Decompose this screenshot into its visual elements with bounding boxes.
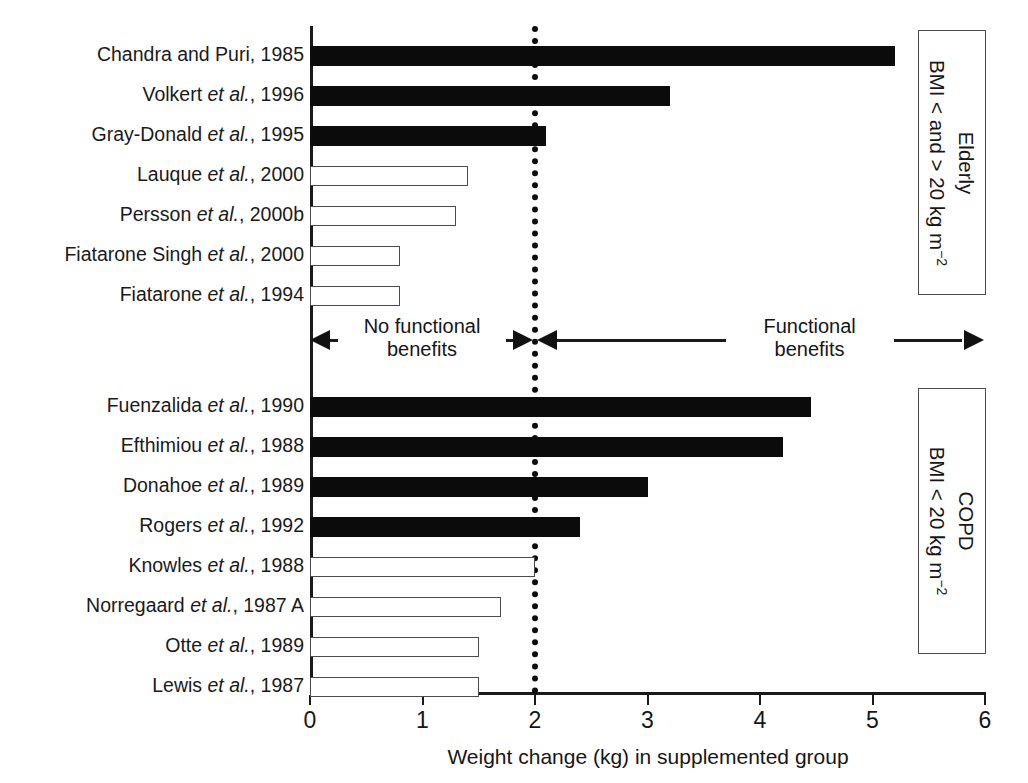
group-copd-sup: −2	[934, 579, 950, 595]
bar-fill	[310, 246, 400, 266]
group-box-copd-text: COPD BMI < 20 kg m−2	[925, 447, 980, 596]
bar-elderly-2	[310, 126, 546, 146]
bar-fill	[310, 597, 501, 617]
study-label-copd-1: Efthimiou et al., 1988	[4, 435, 304, 455]
bar-copd-2	[310, 477, 648, 497]
x-tick-2	[534, 695, 536, 705]
bar-copd-6	[310, 637, 479, 657]
study-label-elderly-0: Chandra and Puri, 1985	[4, 44, 304, 64]
study-label-copd-2: Donahoe et al., 1989	[4, 475, 304, 495]
study-label-elderly-5: Fiatarone Singh et al., 2000	[4, 244, 304, 264]
bar-copd-3	[310, 517, 580, 537]
arrow-inward-right-icon	[513, 330, 533, 350]
study-label-copd-7: Lewis et al., 1987	[4, 675, 304, 695]
x-tick-3	[647, 695, 649, 705]
bar-copd-7	[310, 677, 479, 697]
study-label-copd-6: Otte et al., 1989	[4, 635, 304, 655]
study-label-elderly-2: Gray-Donald et al., 1995	[4, 124, 304, 144]
group-box-copd: COPD BMI < 20 kg m−2	[918, 388, 986, 654]
group-box-elderly: Elderly BMI < and > 20 kg m−2	[918, 30, 986, 295]
bar-fill	[310, 126, 546, 146]
bar-fill	[310, 86, 670, 106]
study-label-elderly-1: Volkert et al., 1996	[4, 84, 304, 104]
bar-fill	[310, 206, 456, 226]
group-copd-line1: COPD	[955, 491, 978, 550]
bar-fill	[310, 637, 479, 657]
study-label-elderly-4: Persson et al., 2000b	[4, 204, 304, 224]
bar-elderly-6	[310, 286, 400, 306]
study-label-copd-3: Rogers et al., 1992	[4, 515, 304, 535]
bar-fill	[310, 677, 479, 697]
bar-elderly-4	[310, 206, 456, 226]
x-tick-label-1: 1	[403, 707, 443, 734]
x-tick-label-4: 4	[740, 707, 780, 734]
x-tick-label-2: 2	[515, 707, 555, 734]
study-label-elderly-6: Fiatarone et al., 1994	[4, 284, 304, 304]
no-functional-line2: benefits	[387, 338, 457, 360]
study-label-copd-5: Norregaard et al., 1987 A	[4, 595, 304, 615]
study-label-copd-4: Knowles et al., 1988	[4, 555, 304, 575]
bar-fill	[310, 557, 535, 577]
functional-line2: benefits	[775, 338, 845, 360]
x-tick-label-6: 6	[965, 707, 1005, 734]
arrow-right-icon	[964, 330, 984, 350]
group-elderly-line1: Elderly	[955, 131, 978, 194]
study-label-elderly-3: Lauque et al., 2000	[4, 164, 304, 184]
group-copd-line2: BMI < 20 kg m−2	[925, 447, 955, 596]
bar-fill	[310, 517, 580, 537]
annotation-text-benefits: Functional benefits	[726, 315, 894, 361]
bar-fill	[310, 166, 468, 186]
arrow-inward-left-icon	[537, 330, 557, 350]
x-tick-label-0: 0	[290, 707, 330, 734]
arrow-left-icon	[310, 330, 330, 350]
bar-elderly-0	[310, 46, 895, 66]
bar-fill	[310, 477, 648, 497]
bar-copd-1	[310, 437, 783, 457]
x-tick-5	[872, 695, 874, 705]
bar-fill	[310, 286, 400, 306]
bar-elderly-5	[310, 246, 400, 266]
figure-root: 0123456 Chandra and Puri, 1985Volkert et…	[0, 0, 1028, 783]
bar-copd-0	[310, 397, 811, 417]
bar-elderly-3	[310, 166, 468, 186]
benefit-annotation: No functional benefits Functional benefi…	[310, 306, 986, 382]
bar-elderly-1	[310, 86, 670, 106]
annotation-text-no-benefits: No functional benefits	[338, 315, 506, 361]
bar-copd-5	[310, 597, 501, 617]
functional-line1: Functional	[763, 315, 855, 337]
bar-fill	[310, 46, 895, 66]
group-elderly-line2: BMI < and > 20 kg m−2	[925, 59, 955, 265]
x-tick-6	[984, 695, 986, 705]
bar-fill	[310, 397, 811, 417]
x-axis-title: Weight change (kg) in supplemented group	[310, 745, 986, 769]
bar-copd-4	[310, 557, 535, 577]
group-box-elderly-text: Elderly BMI < and > 20 kg m−2	[925, 59, 980, 265]
bar-fill	[310, 437, 783, 457]
x-tick-label-5: 5	[853, 707, 893, 734]
no-functional-line1: No functional	[364, 315, 481, 337]
x-tick-4	[759, 695, 761, 705]
study-label-copd-0: Fuenzalida et al., 1990	[4, 395, 304, 415]
group-elderly-sup: −2	[934, 250, 950, 266]
x-tick-label-3: 3	[628, 707, 668, 734]
